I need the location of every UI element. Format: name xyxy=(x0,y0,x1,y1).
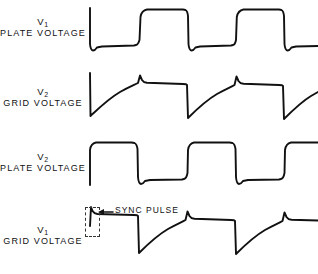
trace-row-v2-plate-voltage: V2 PLATE VOLTAGE xyxy=(0,133,318,195)
trace-row-v2-grid-voltage: V2 GRID VOLTAGE xyxy=(0,64,318,130)
sync-pulse-label: SYNC PULSE xyxy=(115,205,179,215)
waveform-v1-plate-voltage xyxy=(0,0,318,64)
sync-pulse-arrow-icon xyxy=(98,206,114,218)
trace-row-v1-plate-voltage: V1 PLATE VOLTAGE xyxy=(0,0,318,64)
waveform-v2-grid-voltage xyxy=(0,64,318,130)
waveform-v2-plate-voltage xyxy=(0,133,318,195)
waveform-figure: V1 PLATE VOLTAGE V2 GRID VOLTAGE V2 PLAT… xyxy=(0,0,318,274)
